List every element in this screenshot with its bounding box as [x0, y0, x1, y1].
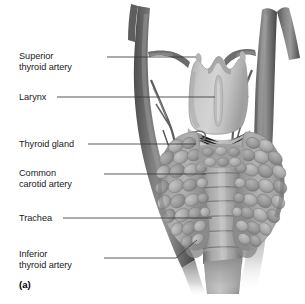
- thyroid-anatomy-figure: Superior thyroid artery Larynx Thyroid g…: [0, 0, 305, 304]
- label-inferior-thyroid-artery: Inferior thyroid artery: [19, 249, 72, 271]
- larynx-thyroid-cartilage: [189, 51, 248, 134]
- label-thyroid-gland: Thyroid gland: [19, 139, 74, 150]
- thyroid-isthmus: [199, 144, 244, 169]
- label-superior-thyroid-artery: Superior thyroid artery: [19, 51, 72, 73]
- label-trachea: Trachea: [19, 213, 52, 224]
- figure-caption: (a): [19, 279, 31, 290]
- label-larynx: Larynx: [19, 92, 46, 103]
- label-common-carotid-artery: Common carotid artery: [19, 168, 72, 190]
